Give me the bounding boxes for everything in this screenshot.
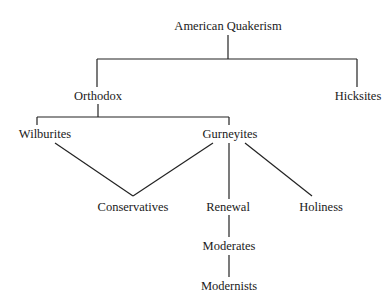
node-modernists: Modernists: [201, 280, 257, 293]
edge-wilburites-conservatives: [55, 143, 133, 196]
edge-gurneyites-conservatives: [133, 143, 213, 196]
node-hicksites: Hicksites: [335, 90, 382, 103]
node-american-quakerism: American Quakerism: [174, 20, 281, 33]
node-conservatives: Conservatives: [98, 201, 169, 214]
quakerism-tree-diagram: American Quakerism Orthodox Hicksites Wi…: [0, 0, 390, 304]
node-moderates: Moderates: [203, 240, 256, 253]
node-holiness: Holiness: [299, 201, 343, 214]
node-orthodox: Orthodox: [74, 90, 122, 103]
edge-gurneyites-holiness: [245, 143, 312, 196]
node-gurneyites: Gurneyites: [203, 128, 258, 141]
node-wilburites: Wilburites: [19, 128, 71, 141]
connector-lines: [0, 0, 390, 304]
node-renewal: Renewal: [206, 201, 250, 214]
